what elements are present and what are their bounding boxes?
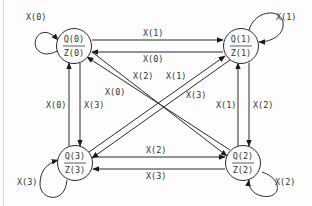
label-diag-q0q2-upper: X(2)	[133, 71, 153, 81]
label-q2-to-q1: X(1)	[216, 100, 236, 110]
edge-q0-to-q2	[92, 52, 227, 156]
label-q2-to-q3: X(3)	[146, 171, 166, 181]
edge-q1-to-q3	[92, 60, 230, 158]
node-q2-output: Z(2)	[233, 165, 253, 175]
node-q3-output: Z(3)	[65, 165, 85, 175]
node-q3-state: Q(3)	[65, 151, 85, 161]
edge-q3-to-q1	[89, 56, 225, 152]
state-diagram: Q(0) Z(0) Q(1) Z(1) Q(3) Z(3) Q(2) Z(2) …	[0, 0, 312, 206]
label-self-q1: X(1)	[276, 12, 296, 22]
node-q1-state: Q(1)	[231, 34, 251, 44]
node-q3: Q(3) Z(3)	[58, 146, 93, 181]
node-q1: Q(1) Z(1)	[224, 29, 259, 64]
label-q0-to-q1: X(1)	[143, 28, 163, 38]
node-q1-output: Z(1)	[231, 48, 251, 58]
node-q2-state: Q(2)	[233, 151, 253, 161]
node-q0-output: Z(0)	[64, 48, 84, 58]
node-q2: Q(2) Z(2)	[226, 146, 261, 181]
label-q1-to-q0: X(0)	[143, 54, 163, 64]
node-q0: Q(0) Z(0)	[57, 29, 92, 64]
label-q3-to-q0: X(0)	[46, 100, 66, 110]
label-q0-to-q3: X(3)	[84, 100, 104, 110]
node-q0-state: Q(0)	[64, 34, 84, 44]
label-q3-to-q2: X(2)	[146, 145, 166, 155]
label-diag-q3q1-lower: X(3)	[186, 90, 206, 100]
label-self-q0: X(0)	[26, 12, 46, 22]
label-self-q3: X(3)	[17, 177, 37, 187]
label-q1-to-q2: X(2)	[253, 100, 273, 110]
label-diag-q3q1-upper: X(1)	[166, 71, 186, 81]
diagram-canvas: Q(0) Z(0) Q(1) Z(1) Q(3) Z(3) Q(2) Z(2) …	[0, 0, 312, 206]
label-diag-q0q2-lower: X(0)	[105, 87, 125, 97]
label-self-q2: X(2)	[275, 177, 295, 187]
self-loop-q0	[35, 32, 59, 54]
